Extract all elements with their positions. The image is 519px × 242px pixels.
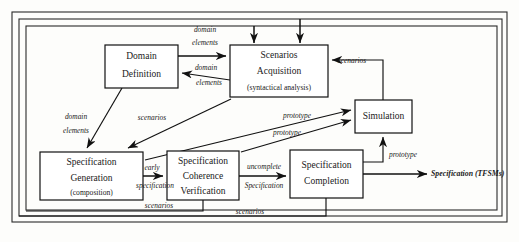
node-scenarios-acquisition-subtitle: (syntactical analysis)	[247, 83, 311, 92]
node-simulation-label: Simulation	[363, 111, 405, 121]
edge-scenarios-to-generation	[128, 99, 231, 148]
node-scenarios-acquisition-line-1: Acquisition	[257, 66, 302, 76]
edge-label-scenarios-from-simulation: scenarios	[338, 56, 366, 65]
node-group: Domain Definition Scenarios Acquisition …	[40, 45, 412, 200]
edge-label-specification-early: specification	[136, 181, 174, 190]
edge-label-prototype-upper: prototype	[282, 111, 312, 120]
node-coherence-line-0: Specification	[178, 156, 228, 166]
output-specification-tfsms: Specification (TFSMs)	[431, 169, 505, 178]
node-specification-generation-line-1: Generation	[70, 173, 112, 183]
edge-label-scenarios-feedback-outer: scenarios	[236, 207, 264, 216]
node-scenarios-acquisition[interactable]: Scenarios Acquisition (syntactical analy…	[230, 45, 328, 97]
edge-label-scenarios-to-generation: scenarios	[138, 113, 166, 122]
node-coherence-line-1: Coherence	[183, 171, 224, 181]
process-diagram: Domain Definition Scenarios Acquisition …	[0, 0, 519, 242]
edge-simulation-to-scenarios	[332, 60, 383, 100]
node-specification-completion[interactable]: Specification Completion	[290, 150, 363, 198]
diagram-canvas: Domain Definition Scenarios Acquisition …	[0, 0, 519, 242]
node-simulation[interactable]: Simulation	[355, 100, 412, 133]
node-specification-generation-subtitle: (composition)	[70, 188, 113, 197]
edge-label-scenarios-feedback-inner: scenarios	[145, 201, 173, 210]
edge-label-uncomplete: uncomplete	[247, 162, 282, 171]
node-coherence-line-2: Verification	[181, 186, 226, 196]
node-specification-coherence-verification[interactable]: Specification Coherence Verification	[167, 151, 239, 200]
edge-label-domain-elements-down-line-0: domain	[65, 112, 87, 121]
edge-coherence-feedback-scenarios	[26, 200, 203, 211]
node-specification-generation-line-0: Specification	[66, 157, 116, 167]
node-completion-line-0: Specification	[301, 160, 351, 170]
edge-label-early: early	[144, 163, 160, 172]
node-domain-definition-line-1: Definition	[122, 69, 161, 79]
edge-label-domain-elements-back-line-0: domain	[195, 63, 217, 72]
edge-completion-to-simulation	[363, 137, 383, 162]
node-specification-completion-rect[interactable]	[290, 150, 363, 198]
edge-label-domain-elements-back-line-1: elements	[196, 78, 222, 87]
edge-domain-to-generation	[87, 88, 122, 148]
edge-label-domain-elements-out-line-0: domain	[194, 25, 216, 34]
edge-label-specification-uncomplete: Specification	[245, 181, 284, 190]
edge-label-domain-elements-out-line-1: elements	[192, 38, 218, 47]
node-completion-line-1: Completion	[304, 176, 349, 186]
node-domain-definition[interactable]: Domain Definition	[105, 45, 178, 88]
node-scenarios-acquisition-line-0: Scenarios	[261, 50, 298, 60]
edge-label-domain-elements-down-line-1: elements	[63, 126, 89, 135]
node-domain-definition-line-0: Domain	[126, 51, 157, 61]
node-specification-generation[interactable]: Specification Generation (composition)	[40, 152, 143, 200]
edge-label-prototype-lower: prototype	[272, 128, 302, 137]
edge-label-prototype-to-simulation: prototype	[388, 150, 418, 159]
